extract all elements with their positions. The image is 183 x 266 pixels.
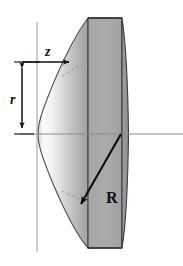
label-radius-of-curvature-R: R bbox=[106, 190, 118, 206]
height-arrow-group bbox=[14, 62, 40, 134]
lens-sag-figure: z r R bbox=[0, 0, 183, 266]
lens-right-face bbox=[122, 18, 129, 248]
lens-center-column bbox=[88, 18, 122, 248]
label-radial-height-r: r bbox=[10, 93, 15, 107]
figure-canvas bbox=[0, 0, 183, 266]
label-sag-z: z bbox=[45, 45, 50, 59]
lens-body-group bbox=[38, 18, 129, 248]
